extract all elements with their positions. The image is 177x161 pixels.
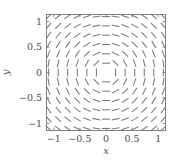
field-segment <box>76 78 79 85</box>
y-axis-tick-labels: −1−0.500.51 <box>19 16 42 129</box>
field-segment <box>143 59 145 67</box>
field-segment <box>121 24 129 27</box>
field-segment <box>121 127 129 129</box>
field-segment <box>151 116 157 122</box>
field-segment <box>85 78 89 85</box>
field-segment <box>92 128 100 129</box>
field-segment <box>113 60 119 66</box>
field-segment <box>133 59 136 66</box>
x-tick-label: 1 <box>155 133 161 144</box>
field-segment <box>112 25 120 27</box>
x-axis-title: x <box>103 145 109 156</box>
field-segment <box>153 78 155 86</box>
field-segment <box>56 32 61 38</box>
field-segment <box>142 88 146 95</box>
field-segment <box>93 89 100 93</box>
field-segment <box>74 117 81 121</box>
field-segment <box>152 41 156 48</box>
field-segment <box>47 87 50 94</box>
field-segment <box>142 41 147 47</box>
field-segment <box>74 24 81 28</box>
field-segment <box>84 98 91 102</box>
field-segment <box>141 23 147 28</box>
field-segment <box>65 41 70 47</box>
y-axis-ticks <box>46 22 166 124</box>
field-segment <box>143 78 145 86</box>
x-tick-label: −1 <box>47 133 61 144</box>
field-segment <box>93 43 101 45</box>
field-segment <box>161 107 165 114</box>
field-segment <box>57 50 60 57</box>
field-segment <box>141 126 148 130</box>
x-axis-ticks <box>54 14 158 131</box>
field-segment <box>93 52 100 56</box>
field-segment <box>122 33 129 37</box>
field-segment <box>162 87 165 94</box>
field-segment <box>141 14 148 18</box>
field-segment <box>133 78 136 85</box>
y-axis-title: y <box>0 69 11 76</box>
field-segment <box>65 107 71 113</box>
field-segment <box>92 25 100 27</box>
field-segment <box>112 128 120 129</box>
field-segment <box>83 15 91 17</box>
field-segment <box>92 118 100 120</box>
field-segment <box>74 98 80 104</box>
field-segment <box>65 32 71 38</box>
field-segment <box>141 32 147 38</box>
field-segment <box>83 24 91 27</box>
field-segment <box>67 78 69 86</box>
field-segment <box>83 118 91 121</box>
field-segment <box>65 23 71 28</box>
field-segment <box>84 88 90 94</box>
field-segment <box>121 15 129 17</box>
field-segment <box>123 60 127 67</box>
field-segment <box>64 14 71 18</box>
field-segment <box>122 108 129 112</box>
field-segment <box>74 42 80 48</box>
field-segment <box>83 33 90 37</box>
field-segment <box>46 107 50 114</box>
x-tick-label: −0.5 <box>68 133 91 144</box>
field-segment <box>132 51 136 58</box>
field-segment <box>55 23 61 29</box>
field-segment <box>152 87 155 94</box>
field-segment <box>57 87 60 94</box>
direction-field-chart: −1−0.500.51 −1−0.500.51 x y <box>0 0 177 161</box>
field-segment <box>74 107 80 112</box>
y-tick-label: 0.5 <box>27 41 42 52</box>
field-segment <box>64 126 71 130</box>
field-segment <box>161 32 165 39</box>
axes-frame <box>47 15 166 131</box>
y-tick-label: −1 <box>28 118 42 129</box>
field-segment <box>141 117 147 122</box>
field-segment <box>84 51 90 57</box>
x-axis-tick-labels: −1−0.500.51 <box>47 133 161 144</box>
field-segment <box>84 42 91 46</box>
field-segment <box>94 79 100 85</box>
field-segment <box>142 50 146 57</box>
field-segment <box>131 107 137 112</box>
field-segment <box>94 60 100 66</box>
field-segment <box>57 59 59 67</box>
field-segment <box>66 50 70 57</box>
field-segment <box>83 108 90 112</box>
field-segment <box>48 78 49 86</box>
field-segment <box>57 78 59 86</box>
x-tick-label: 0 <box>103 133 109 144</box>
field-segment <box>141 107 147 113</box>
field-segment <box>48 59 49 67</box>
field-segment <box>112 118 120 120</box>
field-segment <box>152 50 155 57</box>
field-segment <box>56 97 60 104</box>
field-segment <box>122 98 129 102</box>
field-segment <box>122 51 128 57</box>
field-segment <box>113 79 119 85</box>
field-segment <box>162 50 165 57</box>
field-segments-layer <box>46 14 167 131</box>
field-segment <box>132 98 138 104</box>
y-tick-label: 0 <box>36 67 42 78</box>
field-segment <box>55 116 61 122</box>
field-segment <box>131 24 138 28</box>
field-segment <box>65 117 71 122</box>
